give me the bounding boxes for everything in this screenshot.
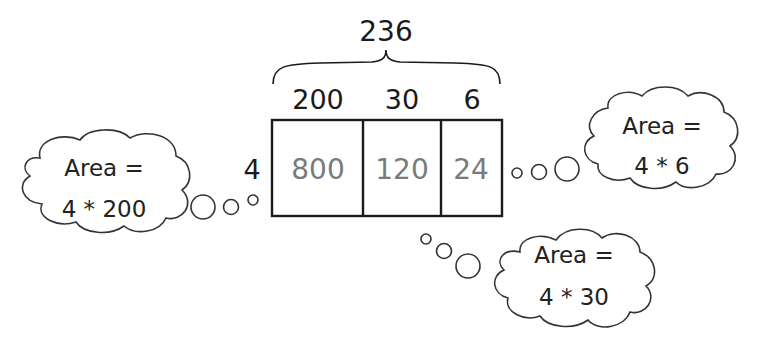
thought-bubble-left-1 xyxy=(191,195,215,219)
column-header-hundreds: 200 xyxy=(282,86,354,113)
thought-bubble-bottom-1 xyxy=(421,234,431,244)
thought-bubble-right-1 xyxy=(512,168,522,178)
row-factor-label: 4 xyxy=(240,156,264,183)
product-cell-24: 24 xyxy=(442,156,500,184)
column-header-ones: 6 xyxy=(452,86,492,113)
thought-bubble-bottom-3 xyxy=(456,254,480,278)
thought-bubble-left-3 xyxy=(248,195,258,205)
thought-bubble-right-2 xyxy=(532,165,547,180)
cloud-left-line1: Area = xyxy=(40,157,168,180)
total-label: 236 xyxy=(356,18,416,46)
product-cell-800: 800 xyxy=(274,156,362,184)
product-cell-120: 120 xyxy=(364,156,440,184)
column-header-tens: 30 xyxy=(372,86,432,113)
thought-bubble-right-3 xyxy=(555,157,579,181)
cloud-right-line2: 4 * 6 xyxy=(600,155,724,178)
thought-bubble-bottom-2 xyxy=(437,244,452,259)
cloud-right-line1: Area = xyxy=(600,115,724,138)
cloud-left-line2: 4 * 200 xyxy=(40,198,168,221)
thought-bubble-left-2 xyxy=(224,200,239,215)
cloud-bottom-line1: Area = xyxy=(512,244,636,267)
cloud-bottom-line2: 4 * 30 xyxy=(512,286,636,309)
curly-brace xyxy=(273,50,500,84)
